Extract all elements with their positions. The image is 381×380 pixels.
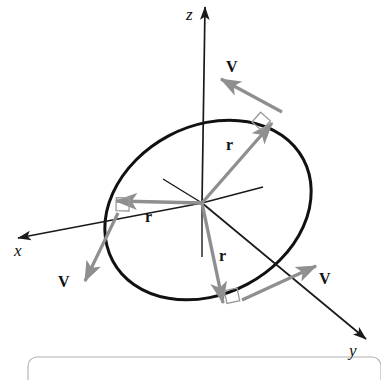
velocity-vector-left: [85, 213, 118, 281]
x-axis-label: x: [13, 241, 22, 260]
radius-label-left: r: [145, 208, 152, 225]
y-axis-line: [202, 203, 366, 339]
velocity-vector-right: [242, 266, 316, 300]
axis-labels: z x y: [13, 5, 357, 360]
figure-canvas: z x y r r r V V V: [0, 0, 381, 380]
velocity-label-left: V: [58, 273, 70, 290]
caption-frame: [28, 357, 381, 380]
coordinate-axes: [18, 7, 366, 339]
z-axis-line: [202, 7, 205, 203]
z-axis-label: z: [185, 5, 193, 24]
velocity-label-right: V: [319, 270, 331, 287]
velocity-vectors: [85, 79, 316, 300]
radius-label-upper-right: r: [226, 136, 233, 153]
y-axis-label: y: [347, 341, 357, 360]
radius-label-lower: r: [219, 247, 226, 264]
radius-vector-upper-right: [202, 123, 272, 203]
velocity-vector-top: [221, 79, 282, 112]
negative-x-stub: [163, 179, 202, 203]
circular-path-group: [73, 85, 343, 335]
physics-figure: z x y r r r V V V: [0, 0, 381, 380]
velocity-label-top: V: [226, 58, 238, 75]
right-angle-markers: [116, 112, 270, 303]
radius-vector-labels: r r r: [145, 136, 233, 264]
radius-vectors: [116, 123, 272, 303]
